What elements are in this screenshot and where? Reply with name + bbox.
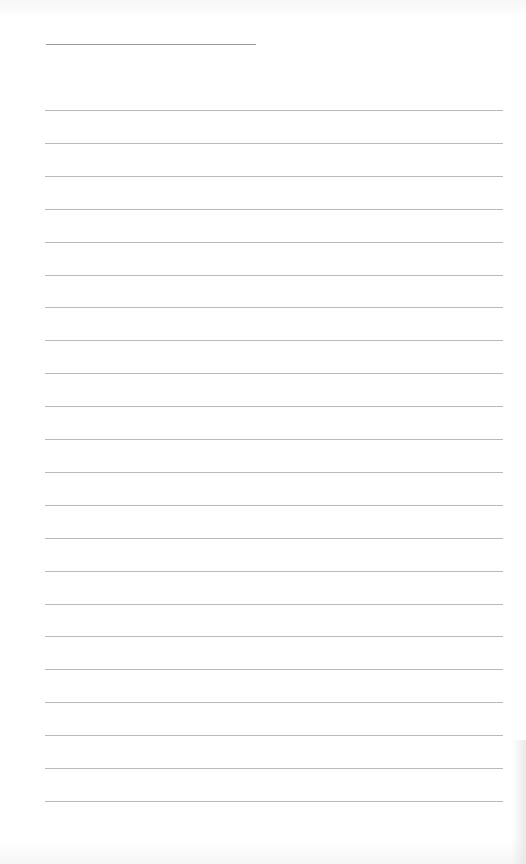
ruled-line bbox=[45, 702, 503, 703]
ruled-line bbox=[45, 735, 503, 736]
ruled-line bbox=[45, 636, 503, 637]
ruled-line bbox=[45, 275, 503, 276]
page-edge-shadow bbox=[512, 740, 526, 864]
ruled-line bbox=[45, 209, 503, 210]
ruled-line bbox=[45, 143, 503, 144]
ruled-line bbox=[45, 472, 503, 473]
ruled-line bbox=[45, 538, 503, 539]
ruled-line bbox=[45, 242, 503, 243]
ruled-line bbox=[45, 110, 503, 111]
ruled-line bbox=[45, 307, 503, 308]
ruled-line bbox=[45, 176, 503, 177]
ruled-line bbox=[45, 669, 503, 670]
ruled-line bbox=[45, 439, 503, 440]
ruled-line bbox=[45, 604, 503, 605]
ruled-line bbox=[45, 571, 503, 572]
ruled-line bbox=[45, 373, 503, 374]
name-header-line bbox=[46, 44, 256, 45]
lined-paper-page bbox=[0, 0, 526, 864]
ruled-line bbox=[45, 768, 503, 769]
ruled-line bbox=[45, 340, 503, 341]
ruled-line bbox=[45, 406, 503, 407]
ruled-line bbox=[45, 801, 503, 802]
ruled-line bbox=[45, 505, 503, 506]
